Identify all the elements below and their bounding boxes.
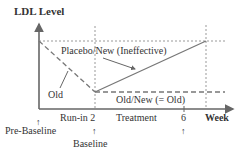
old-new-label: Old/New (= Old)	[116, 94, 185, 106]
old-label: Old	[48, 89, 63, 100]
placebo-pointer	[103, 58, 135, 69]
tick-6: 6	[181, 112, 186, 123]
old-pointer	[60, 71, 68, 88]
baseline-label: Baseline	[73, 138, 108, 149]
y-axis-label: LDL Level	[14, 5, 64, 17]
tick-treatment: Treatment	[116, 112, 157, 123]
ldl-diagram: LDL Level Placebo/New (Ineffective) Old …	[0, 0, 244, 156]
placebo-new-label: Placebo/New (Ineffective)	[61, 45, 167, 57]
week-6-arrow-icon: ↑	[181, 126, 186, 136]
pre-baseline-label: Pre-Baseline	[5, 125, 57, 136]
tick-runin: Run-in 2	[60, 112, 95, 123]
baseline-arrow-icon: ↑	[92, 126, 97, 136]
x-axis-label: Week	[205, 112, 229, 123]
